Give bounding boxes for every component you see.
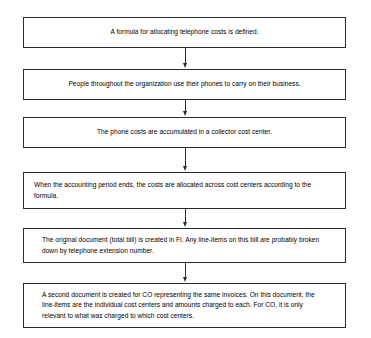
flow-node-step-2: People throughout the organization use t…: [23, 69, 346, 100]
arrow-head: [183, 166, 187, 171]
flow-node-step-4: When the accounting period ends, the cos…: [23, 172, 346, 209]
flow-node-step-1-label: A formula for allocating telephone costs…: [24, 27, 345, 38]
flow-node-step-4-label: When the accounting period ends, the cos…: [24, 180, 345, 201]
arrow-head: [183, 111, 187, 116]
flow-node-step-5-label: The original document (total bill) is cr…: [24, 235, 345, 256]
flow-node-step-3: The phone costs are accumulated in a col…: [23, 117, 346, 148]
flowchart-canvas: A formula for allocating telephone costs…: [0, 0, 371, 338]
flow-node-step-3-label: The phone costs are accumulated in a col…: [24, 127, 345, 138]
arrow-head: [183, 277, 187, 282]
arrow-stem: [185, 48, 186, 64]
arrow-head: [183, 222, 187, 227]
arrow-down-icon-1: [183, 48, 188, 69]
arrow-head: [183, 63, 187, 68]
arrow-down-icon-3: [183, 148, 188, 172]
arrow-down-icon-2: [183, 100, 188, 117]
arrow-down-icon-5: [183, 263, 188, 283]
flow-node-step-6: A second document is created for CO repr…: [23, 283, 346, 328]
arrow-stem: [185, 263, 186, 278]
flow-node-step-6-label: A second document is created for CO repr…: [24, 290, 345, 322]
flow-node-step-5: The original document (total bill) is cr…: [23, 228, 346, 263]
arrow-stem: [185, 148, 186, 167]
arrow-down-icon-4: [183, 209, 188, 228]
flow-node-step-2-label: People throughout the organization use t…: [24, 79, 345, 90]
arrow-stem: [185, 209, 186, 223]
flow-node-step-1: A formula for allocating telephone costs…: [23, 17, 346, 48]
